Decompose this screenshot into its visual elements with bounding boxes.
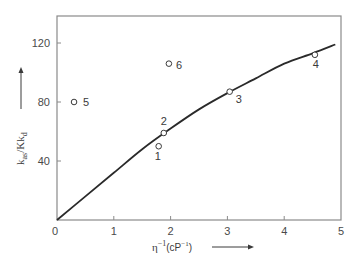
x-axis-label: η−1(cP−1) <box>152 239 254 253</box>
y-tick-label: 120 <box>32 37 50 49</box>
data-point-label: 1 <box>155 150 161 162</box>
data-point-label: 5 <box>83 96 89 108</box>
data-point-marker <box>156 143 162 149</box>
svg-text:kas/Kkd: kas/Kkd <box>14 132 29 165</box>
data-point-marker <box>312 52 318 58</box>
x-tick-label: 4 <box>281 225 287 237</box>
x-tick-label: 0 <box>52 225 58 237</box>
x-tick-label: 3 <box>224 225 230 237</box>
y-axis-label: kas/Kkd <box>14 67 29 165</box>
data-point-label: 4 <box>313 58 319 70</box>
chart: 012345 4080120 123456 η−1(cP−1) kas/Kkd <box>0 0 354 268</box>
y-tick-label: 40 <box>38 155 50 167</box>
data-point-marker <box>71 99 77 105</box>
x-arrow-head-icon <box>248 245 254 250</box>
data-point-marker <box>227 89 233 95</box>
y-tick-label: 80 <box>38 96 50 108</box>
x-tick-label: 2 <box>168 225 174 237</box>
plot-frame <box>57 16 341 220</box>
y-arrow-head-icon <box>19 67 24 73</box>
fit-curve <box>57 44 335 220</box>
x-tick-label: 5 <box>338 225 344 237</box>
svg-text:η−1(cP−1): η−1(cP−1) <box>152 239 192 253</box>
data-point-label: 6 <box>176 59 182 71</box>
x-axis-ticks: 012345 <box>52 216 344 237</box>
data-point-marker <box>161 130 167 136</box>
x-tick-label: 1 <box>111 225 117 237</box>
data-point-label: 2 <box>161 115 167 127</box>
data-points: 123456 <box>71 52 319 162</box>
data-point-label: 3 <box>236 93 242 105</box>
data-point-marker <box>166 61 172 67</box>
